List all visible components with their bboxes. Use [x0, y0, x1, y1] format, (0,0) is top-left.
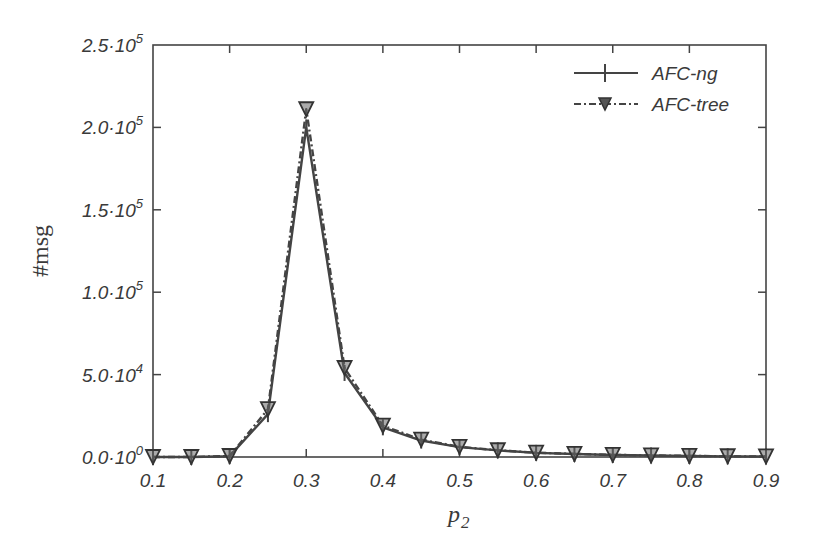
x-tick-label: 0.7 — [600, 470, 628, 491]
triangle-down-marker-icon — [338, 361, 352, 375]
svg-text:p: p — [446, 501, 460, 527]
svg-text:AFC-tree: AFC-tree — [651, 94, 729, 115]
y-axis-title: #msg — [27, 225, 53, 277]
x-tick-label: 0.1 — [140, 470, 166, 491]
x-tick-label: 0.8 — [676, 470, 703, 491]
line-chart: 0.0·1005.0·1041.0·1051.5·1052.0·1052.5·1… — [0, 0, 813, 554]
x-axis-title: p 2 — [446, 501, 470, 532]
series-afc-tree — [146, 102, 773, 464]
x-tick-label: 0.5 — [446, 470, 473, 491]
series-afc-ng — [153, 119, 766, 465]
svg-text:2: 2 — [461, 513, 470, 532]
y-tick-label: 1.0·105 — [82, 278, 144, 303]
x-tick-label: 0.9 — [753, 470, 780, 491]
triangle-down-marker-icon — [376, 419, 390, 433]
y-tick-label: 1.5·105 — [82, 196, 144, 221]
legend-item-afc-tree: AFC-tree — [574, 94, 729, 115]
triangle-down-marker-icon — [299, 102, 313, 116]
x-tick-label: 0.2 — [216, 470, 243, 491]
y-tick-label: 2.5·105 — [81, 31, 144, 56]
legend-item-afc-ng: AFC-ng — [574, 63, 718, 84]
legend: AFC-ng AFC-tree — [574, 63, 729, 115]
y-tick-label: 2.0·105 — [81, 113, 144, 138]
y-tick-label: 0.0·100 — [82, 443, 144, 468]
series-layer — [146, 102, 773, 465]
y-tick-label: 5.0·104 — [82, 361, 143, 386]
svg-text:AFC-ng: AFC-ng — [651, 63, 718, 84]
x-tick-label: 0.6 — [523, 470, 550, 491]
x-tick-label: 0.4 — [370, 470, 396, 491]
x-tick-label: 0.3 — [293, 470, 320, 491]
